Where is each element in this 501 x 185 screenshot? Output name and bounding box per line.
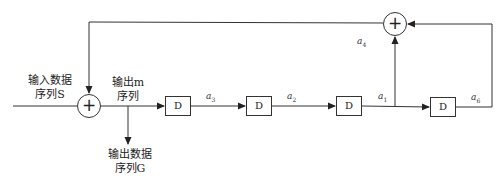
plus-icon: + (388, 13, 402, 33)
tap-label-a2: a2 (287, 91, 296, 103)
tap-label-a3: a3 (206, 91, 215, 103)
delay-block-3: D (336, 96, 362, 116)
delay-block-2: D (246, 96, 272, 116)
tap-label-a6: a6 (471, 92, 480, 104)
tap-label-a4: a4 (357, 36, 366, 48)
plus-icon: + (82, 95, 96, 115)
output-label: 输出数据 序列G (98, 148, 162, 176)
input-label: 输入数据 序列S (18, 74, 82, 102)
middle-label: 输出m 序列 (104, 76, 152, 104)
a1-line (362, 106, 429, 107)
tap-label-a1: a1 (378, 91, 387, 103)
feedback-xor-adder: + (383, 12, 407, 36)
delay-block-4: D (430, 97, 456, 117)
delay-block-1: D (165, 96, 191, 116)
